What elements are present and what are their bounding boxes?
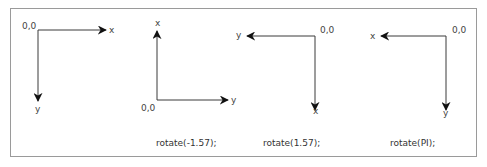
x-axis-label: x xyxy=(155,18,160,28)
origin-label: 0,0 xyxy=(22,21,36,31)
y-axis-label: y xyxy=(236,30,241,40)
default-axes xyxy=(38,30,106,101)
x-axis-label: x xyxy=(109,25,114,35)
rotate-neg-half-pi-axes xyxy=(157,31,228,100)
origin-label: 0,0 xyxy=(320,25,334,35)
y-axis-label: y xyxy=(443,108,448,118)
origin-label: 0,0 xyxy=(141,103,155,113)
rotate-caption: rotate(PI); xyxy=(390,138,435,148)
x-axis-label: x xyxy=(313,106,318,116)
rotate-caption: rotate(-1.57); xyxy=(156,138,216,148)
y-axis-label: y xyxy=(35,104,40,114)
y-axis-label: y xyxy=(231,95,236,105)
rotate-pi-axes xyxy=(381,36,446,110)
origin-label: 0,0 xyxy=(452,25,466,35)
rotate-caption: rotate(1.57); xyxy=(263,138,320,148)
x-axis-label: x xyxy=(370,31,375,41)
rotate-half-pi-axes xyxy=(247,36,315,110)
